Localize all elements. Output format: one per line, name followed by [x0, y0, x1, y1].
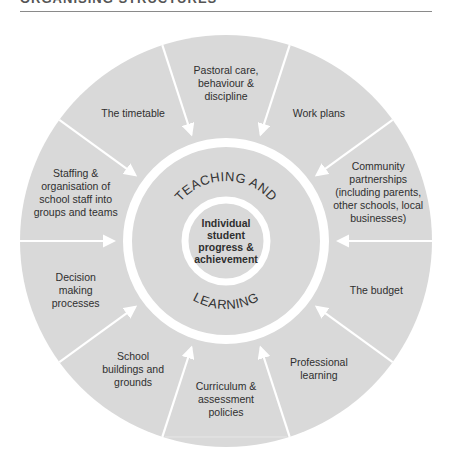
segment-label-line: groups and teams: [34, 206, 118, 218]
segment-label-work-plans: Work plans: [293, 107, 345, 119]
segment-label-line: grounds: [114, 376, 152, 388]
segment-label-budget: The budget: [350, 284, 403, 296]
segment-label-line: school staff into: [39, 193, 112, 205]
segment-label-line: Curriculum &: [196, 380, 257, 392]
segment-label-line: Professional: [290, 356, 348, 368]
segment-label-line: behaviour &: [198, 77, 254, 89]
core-text: Individualstudentprogress &achievement: [194, 217, 258, 265]
segment-label-line: processes: [52, 297, 100, 309]
segment-label-decision-making: Decisionmakingprocesses: [52, 271, 100, 309]
segment-label-line: (including parents,: [335, 186, 421, 198]
segment-label-timetable: The timetable: [101, 107, 165, 119]
segment-label-line: making: [59, 284, 93, 296]
core-text-line: achievement: [194, 253, 258, 265]
segment-label-line: School: [117, 350, 149, 362]
core-text-line: Individual: [201, 217, 250, 229]
segment-label-line: businesses): [350, 212, 406, 224]
segment-label-line: organisation of: [41, 180, 110, 192]
core-text-line: student: [207, 229, 245, 241]
segment-label-line: other schools, local: [333, 199, 423, 211]
segment-label-line: assessment: [198, 393, 254, 405]
segment-label-line: buildings and: [102, 363, 164, 375]
segment-label-line: The timetable: [101, 107, 165, 119]
organising-structures-wheel: TEACHING AND LEARNING Individualstudentp…: [0, 0, 450, 465]
core-label: Individualstudentprogress &achievement: [194, 217, 258, 265]
segment-label-line: learning: [300, 369, 338, 381]
segment-label-line: Staffing &: [53, 167, 98, 179]
segment-label-line: Pastoral care,: [194, 64, 259, 76]
segment-label-line: partnerships: [349, 173, 407, 185]
segment-label-line: Work plans: [293, 107, 345, 119]
segment-label-line: The budget: [350, 284, 403, 296]
segment-label-line: Community: [352, 160, 406, 172]
core-text-line: progress &: [198, 241, 254, 253]
segment-label-line: policies: [208, 406, 243, 418]
segment-label-line: discipline: [204, 90, 247, 102]
segment-label-line: Decision: [56, 271, 96, 283]
